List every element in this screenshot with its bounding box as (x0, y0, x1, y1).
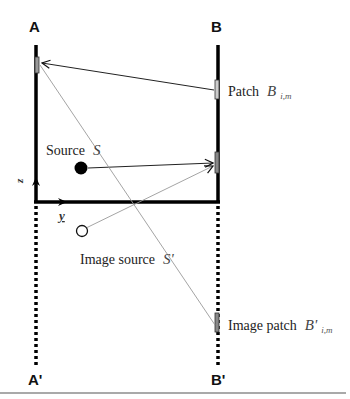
z-axis-label: z (13, 178, 25, 184)
image-patch-label-text: Image patch (228, 318, 297, 333)
image-source-circle-icon (77, 226, 88, 237)
patch-symbol: B (267, 83, 276, 99)
source-dot-icon (75, 162, 88, 175)
patch-subscript: i,m (280, 91, 292, 101)
source-label-text: Source (46, 143, 85, 158)
ray-patch-to-wall-a (42, 63, 214, 90)
image-patch (215, 313, 219, 332)
patch-label-text: Patch (228, 84, 259, 99)
patch-wall-a (35, 57, 39, 73)
wall-b-image-label: B' (211, 371, 225, 388)
image-patch-symbol: B' (305, 317, 318, 333)
ray-image-source-to-patch (84, 166, 213, 229)
wall-a-image-label: A' (28, 371, 42, 388)
patch-receiver (215, 152, 219, 173)
wall-a-label: A (29, 18, 40, 35)
image-source-diagram: A B A' B' z y Source S Image source S' P… (0, 0, 350, 399)
image-patch-label: Image patch B' i,m (228, 316, 333, 335)
patch-b (215, 80, 219, 99)
image-patch-subscript: i,m (321, 325, 333, 335)
image-source-label: Image source S' (80, 250, 175, 267)
wall-b-label: B (211, 18, 222, 35)
image-source-label-text: Image source (80, 252, 155, 267)
y-axis-label: y (57, 208, 65, 223)
image-source-symbol: S' (163, 251, 175, 267)
patch-label: Patch B i,m (228, 82, 292, 101)
source-symbol: S (93, 142, 101, 158)
ray-image-wall-a-to-image-patch (40, 65, 215, 325)
source-label: Source S (46, 141, 101, 158)
